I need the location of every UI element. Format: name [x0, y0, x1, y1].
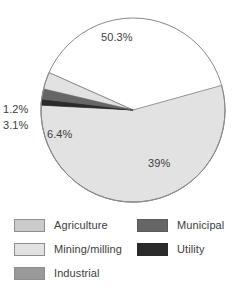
slice-label-utility: 1.2%	[3, 103, 28, 115]
legend-label-agriculture: Agriculture	[54, 219, 108, 231]
slice-label-municipal: 3.1%	[3, 119, 28, 131]
legend-swatch-mining-milling	[14, 243, 45, 256]
pie-chart-figure: 50.3% 39% 6.4% 1.2% 3.1% Agriculture Min…	[0, 0, 247, 289]
legend-item-industrial[interactable]: Industrial	[14, 261, 122, 285]
legend-label-industrial: Industrial	[54, 267, 100, 279]
legend-label-mining-milling: Mining/milling	[54, 243, 122, 255]
legend-label-municipal: Municipal	[177, 219, 224, 231]
legend-item-agriculture[interactable]: Agriculture	[14, 213, 122, 237]
slice-label-agriculture: 50.3%	[101, 31, 133, 43]
legend-item-mining-milling[interactable]: Mining/milling	[14, 237, 122, 261]
legend-column-left: Agriculture Mining/milling Industrial	[14, 213, 122, 285]
slice-label-mining-milling: 39%	[148, 157, 170, 169]
pie-plot-area: 50.3% 39% 6.4% 1.2% 3.1%	[0, 0, 247, 212]
legend-swatch-utility	[137, 243, 168, 256]
legend-swatch-agriculture	[14, 219, 45, 232]
chart-legend: Agriculture Mining/milling Industrial Mu…	[0, 213, 247, 289]
legend-label-utility: Utility	[177, 243, 205, 255]
legend-item-utility[interactable]: Utility	[137, 237, 224, 261]
slice-label-industrial: 6.4%	[47, 128, 72, 140]
legend-item-municipal[interactable]: Municipal	[137, 213, 224, 237]
legend-swatch-industrial	[14, 267, 45, 280]
legend-column-right: Municipal Utility	[137, 213, 224, 261]
legend-swatch-municipal	[137, 219, 168, 232]
